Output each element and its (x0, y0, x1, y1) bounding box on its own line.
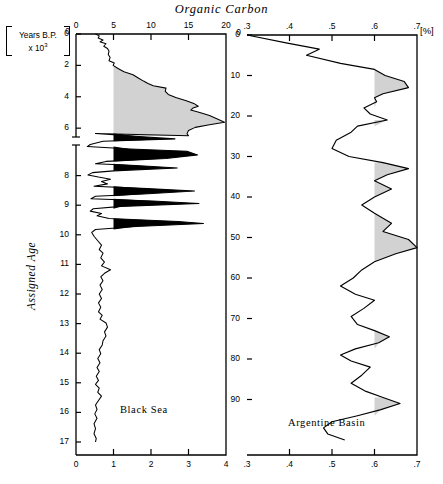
argentine-basin-plot (247, 35, 417, 440)
black-sea-gray-fill (114, 34, 225, 136)
axis-tick-label: 15 (184, 20, 193, 30)
axis-tick-label: .7 (413, 21, 420, 31)
axis-tick-label: 3 (186, 459, 191, 469)
axis-tick-label: .4 (286, 459, 293, 469)
axis-tick-label: 9 (64, 199, 69, 209)
axis-tick-label: 10 (146, 20, 155, 30)
axis-tick-label: .4 (286, 21, 293, 31)
figure-canvas: Organic Carbon Years B.P. x 103 Assigned… (0, 0, 443, 484)
axis-tick-label: 0 (74, 20, 79, 30)
axis-tick-label: 70 (231, 313, 240, 323)
axis-tick-label: .6 (371, 21, 378, 31)
black-sea-black-fill (114, 134, 204, 442)
axis-tick-label: 15 (60, 377, 69, 387)
axis-tick-label: 14 (60, 347, 69, 357)
axis-tick-label: 0 (236, 27, 241, 37)
argentine-gray-fill (375, 397, 401, 415)
axis-tick-label: 10 (60, 229, 69, 239)
axis-tick-label: 11 (60, 258, 69, 268)
axis-tick-label: .5 (328, 459, 335, 469)
axis-tick-label: 40 (231, 191, 240, 201)
axis-tick-label: 4 (224, 459, 229, 469)
axis-tick-label: 60 (231, 272, 240, 282)
axis-tick-label: 80 (231, 353, 240, 363)
axis-tick-label: 13 (60, 318, 69, 328)
black-sea-plot (87, 34, 224, 442)
axis-tick-label: 2 (64, 59, 69, 69)
axis-tick-label: 1 (111, 459, 116, 469)
axis-tick-label: 2 (149, 459, 154, 469)
axis-tick-label: 8 (64, 170, 69, 180)
axis-tick-label: 10 (231, 70, 240, 80)
axis-tick-label: 0 (74, 459, 79, 469)
axis-tick-label: 90 (231, 394, 240, 404)
axis-tick-label: 6 (64, 122, 69, 132)
axis-tick-label: .7 (413, 459, 420, 469)
axis-tick-label: 0 (65, 26, 70, 36)
axis-tick-label: .3 (243, 459, 250, 469)
axis-tick-label: 5 (111, 20, 116, 30)
axis-tick-label: 16 (60, 406, 69, 416)
axis-tick-label: 50 (231, 232, 240, 242)
axis-tick-label: 17 (60, 436, 69, 446)
axis-tick-label: .6 (371, 459, 378, 469)
axis-tick-label: 20 (231, 110, 240, 120)
axis-tick-label: .5 (328, 21, 335, 31)
axis-tick-label: 12 (60, 288, 69, 298)
axis-tick-label: 20 (221, 20, 230, 30)
axis-tick-label: .3 (243, 21, 250, 31)
axis-tick-label: 4 (64, 91, 69, 101)
axis-tick-label: 30 (231, 151, 240, 161)
